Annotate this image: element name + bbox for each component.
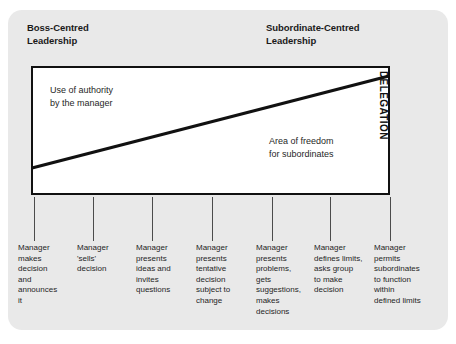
tick-mark-3	[152, 197, 153, 241]
label-area-of-freedom: Area of freedom for subordinates	[269, 135, 334, 160]
column-label-6: Manager defines limits, asks group to ma…	[314, 243, 372, 296]
tick-mark-2	[93, 197, 94, 241]
heading-subordinate-centred: Subordinate-Centred Leadership	[266, 22, 360, 47]
heading-boss-centred: Boss-Centred Leadership	[27, 22, 89, 47]
column-label-3: Manager presents ideas and invites quest…	[136, 243, 194, 296]
tick-mark-4	[212, 197, 213, 241]
column-label-2: Manager 'sells' decision	[77, 243, 135, 275]
tick-mark-1	[34, 197, 35, 241]
tick-mark-6	[330, 197, 331, 241]
label-delegation: DELEGATION	[376, 69, 390, 194]
tick-mark-7	[390, 197, 391, 241]
column-label-7: Manager permits subordinates to function…	[374, 243, 432, 307]
figure-canvas: Boss-Centred Leadership Subordinate-Cent…	[0, 0, 456, 344]
tick-mark-5	[272, 197, 273, 241]
column-label-5: Manager presents problems, gets suggesti…	[256, 243, 314, 317]
column-label-1: Manager makes decision and announces it	[18, 243, 76, 307]
column-label-4: Manager presents tentative decision subj…	[196, 243, 254, 307]
label-use-of-authority: Use of authority by the manager	[50, 84, 113, 109]
